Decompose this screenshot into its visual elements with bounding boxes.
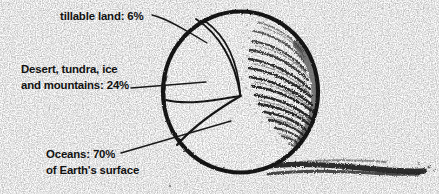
callout-desert-line2: and mountains: 24% [21, 78, 129, 94]
callout-tillable-land: tillable land: 6% [60, 9, 144, 25]
callout-oceans-line1: Oceans: 70% [46, 147, 139, 163]
callout-oceans: Oceans: 70% of Earth's surface [46, 147, 139, 178]
callout-desert-line1: Desert, tundra, ice [21, 62, 129, 78]
callout-tillable-line1: tillable land: 6% [60, 9, 144, 25]
callout-oceans-line2: of Earth's surface [46, 163, 139, 179]
figure-canvas: tillable land: 6% Desert, tundra, ice an… [0, 0, 439, 194]
callout-desert-tundra-ice: Desert, tundra, ice and mountains: 24% [21, 62, 129, 93]
